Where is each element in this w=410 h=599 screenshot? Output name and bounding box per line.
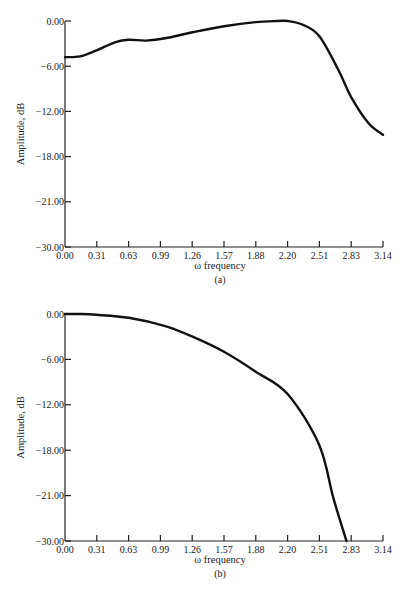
y-axis-ticks: 0.00−6.00−12.00−18.00−21.00−30.00 bbox=[36, 309, 71, 547]
x-tick-label: 0.00 bbox=[56, 250, 74, 261]
x-tick-label: 0.31 bbox=[88, 250, 106, 261]
y-tick-label: −21.00 bbox=[36, 196, 64, 207]
x-tick-label: 0.99 bbox=[152, 544, 170, 555]
y-tick-label: −12.00 bbox=[36, 399, 64, 410]
y-tick-label: 0.00 bbox=[47, 16, 65, 27]
chart-a: 0.00−6.00−12.00−18.00−21.00−30.00 0.000.… bbox=[15, 16, 392, 287]
y-tick-label: −12.00 bbox=[36, 106, 64, 117]
x-axis-ticks: 0.000.310.630.991.261.571.882.202.512.83… bbox=[56, 535, 392, 555]
y-axis-ticks: 0.00−6.00−12.00−18.00−21.00−30.00 bbox=[36, 16, 71, 253]
x-tick-label: 2.20 bbox=[279, 250, 297, 261]
x-tick-label: 2.51 bbox=[311, 250, 329, 261]
x-axis-title: ω frequency bbox=[194, 554, 246, 565]
x-tick-label: 2.51 bbox=[311, 544, 329, 555]
x-tick-label: 0.63 bbox=[120, 250, 138, 261]
amplitude-curve bbox=[65, 314, 347, 541]
y-axis-title: Amplitude, dB bbox=[15, 103, 26, 165]
y-axis-title: Amplitude, dB bbox=[15, 396, 26, 458]
x-tick-label: 0.99 bbox=[152, 250, 170, 261]
y-tick-label: 0.00 bbox=[47, 309, 65, 320]
chart-caption: (a) bbox=[214, 274, 225, 286]
y-tick-label: −6.00 bbox=[41, 61, 64, 72]
x-tick-label: 0.00 bbox=[56, 544, 74, 555]
figure: 0.00−6.00−12.00−18.00−21.00−30.00 0.000.… bbox=[0, 0, 410, 599]
x-tick-label: 2.83 bbox=[342, 544, 360, 555]
y-tick-label: −6.00 bbox=[41, 354, 64, 365]
x-tick-label: 1.88 bbox=[247, 544, 265, 555]
y-tick-label: −21.00 bbox=[36, 490, 64, 501]
x-tick-label: 2.83 bbox=[342, 250, 360, 261]
x-tick-label: 0.31 bbox=[88, 544, 106, 555]
chart-caption: (b) bbox=[214, 568, 226, 580]
amplitude-curve bbox=[65, 21, 383, 135]
x-tick-label: 3.14 bbox=[374, 250, 392, 261]
x-tick-label: 1.88 bbox=[247, 250, 265, 261]
x-axis-title: ω frequency bbox=[194, 260, 246, 271]
chart-b: 0.00−6.00−12.00−18.00−21.00−30.00 0.000.… bbox=[15, 309, 392, 581]
y-tick-label: −18.00 bbox=[36, 151, 64, 162]
x-tick-label: 0.63 bbox=[120, 544, 138, 555]
y-tick-label: −18.00 bbox=[36, 445, 64, 456]
x-tick-label: 3.14 bbox=[374, 544, 392, 555]
x-axis-ticks: 0.000.310.630.991.261.571.882.202.512.83… bbox=[56, 241, 392, 261]
x-tick-label: 2.20 bbox=[279, 544, 297, 555]
